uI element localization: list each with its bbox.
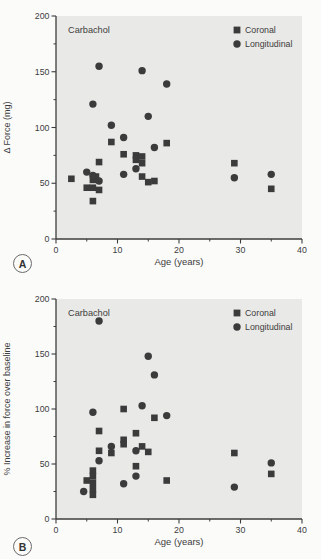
y-axis-label: Δ Force (mg) (2, 101, 12, 153)
data-point-coronal (90, 473, 97, 480)
data-point-coronal (151, 178, 158, 185)
data-point-coronal (108, 139, 115, 146)
y-tick-label: 200 (35, 294, 50, 304)
x-tick-label: 10 (113, 525, 123, 535)
x-tick-label: 0 (54, 245, 59, 255)
y-tick-label: 100 (35, 123, 50, 133)
legend-label: Coronal (245, 308, 276, 318)
data-point-coronal (139, 153, 146, 160)
annotation-carbachol: Carbachol (68, 25, 110, 35)
data-point-coronal (268, 471, 275, 478)
data-point-coronal (120, 406, 127, 413)
scatter-plot-panel-a: 010203040050100150200Age (years)Δ Force … (0, 0, 321, 280)
plot-area (56, 16, 302, 239)
data-point-longitudinal (80, 488, 87, 495)
data-point-coronal (90, 184, 97, 191)
x-axis-label: Age (years) (154, 536, 203, 547)
data-point-coronal (163, 140, 170, 147)
data-point-coronal (108, 450, 115, 457)
data-point-longitudinal (120, 480, 127, 487)
data-point-longitudinal (95, 177, 102, 184)
y-tick-label: 150 (35, 349, 50, 359)
data-point-coronal (120, 151, 127, 158)
data-point-longitudinal (145, 113, 152, 120)
x-tick-label: 30 (236, 245, 246, 255)
data-point-longitudinal (138, 67, 145, 74)
panel-b-letter: B (19, 541, 27, 553)
figure: 010203040050100150200Age (years)Δ Force … (0, 0, 321, 559)
legend-label: Longitudinal (245, 39, 292, 49)
y-tick-label: 100 (35, 404, 50, 414)
legend-label: Coronal (245, 25, 276, 35)
data-point-longitudinal (132, 447, 139, 454)
data-point-coronal (268, 186, 275, 193)
data-point-longitudinal (95, 62, 102, 69)
x-tick-label: 20 (174, 245, 184, 255)
data-point-coronal (139, 160, 146, 167)
panel-a-letter: A (19, 258, 27, 270)
y-tick-label: 200 (35, 11, 50, 21)
y-axis-label: % Increase in force over baseline (2, 342, 12, 475)
data-point-coronal (90, 492, 97, 499)
data-point-coronal (68, 175, 75, 182)
data-point-longitudinal (89, 409, 96, 416)
y-tick-label: 50 (40, 459, 50, 469)
data-point-longitudinal (231, 483, 238, 490)
data-point-longitudinal (163, 80, 170, 87)
legend-circle-marker (233, 323, 240, 330)
data-point-longitudinal (120, 171, 127, 178)
data-point-longitudinal (108, 443, 115, 450)
x-tick-label: 40 (297, 525, 307, 535)
panel-a-tag: A (13, 254, 32, 273)
data-point-coronal (96, 159, 103, 166)
y-tick-label: 0 (45, 514, 50, 524)
data-point-coronal (145, 179, 152, 186)
data-point-coronal (96, 448, 103, 455)
x-tick-label: 0 (54, 525, 59, 535)
y-tick-label: 50 (40, 178, 50, 188)
data-point-coronal (163, 477, 170, 484)
data-point-longitudinal (151, 371, 158, 378)
x-axis-label: Age (years) (154, 256, 203, 267)
data-point-longitudinal (95, 457, 102, 464)
legend-label: Longitudinal (245, 322, 292, 332)
data-point-coronal (133, 463, 140, 470)
x-tick-label: 20 (174, 525, 184, 535)
data-point-longitudinal (132, 472, 139, 479)
legend-square-marker (234, 310, 241, 317)
data-point-longitudinal (145, 353, 152, 360)
data-point-longitudinal (120, 134, 127, 141)
data-point-longitudinal (268, 171, 275, 178)
data-point-coronal (96, 187, 103, 194)
y-tick-label: 150 (35, 67, 50, 77)
data-point-longitudinal (89, 100, 96, 107)
data-point-longitudinal (95, 317, 102, 324)
data-point-longitudinal (108, 122, 115, 129)
annotation-carbachol: Carbachol (68, 308, 110, 318)
scatter-plot-panel-b: 010203040050100150200Age (years)% Increa… (0, 280, 321, 559)
y-tick-label: 0 (45, 234, 50, 244)
data-point-coronal (133, 152, 140, 159)
legend-square-marker (234, 27, 241, 34)
data-point-longitudinal (163, 412, 170, 419)
data-point-coronal (139, 443, 146, 450)
data-point-coronal (151, 415, 158, 422)
data-point-coronal (133, 430, 140, 437)
data-point-longitudinal (138, 402, 145, 409)
data-point-coronal (120, 441, 127, 448)
legend-circle-marker (233, 40, 240, 47)
data-point-coronal (231, 160, 238, 167)
data-point-coronal (90, 479, 97, 486)
data-point-coronal (90, 198, 97, 205)
x-tick-label: 10 (113, 245, 123, 255)
data-point-longitudinal (151, 144, 158, 151)
data-point-coronal (83, 477, 90, 484)
data-point-longitudinal (89, 172, 96, 179)
data-point-coronal (145, 449, 152, 456)
data-point-coronal (231, 450, 238, 457)
data-point-longitudinal (268, 459, 275, 466)
data-point-coronal (139, 173, 146, 180)
x-tick-label: 30 (236, 525, 246, 535)
data-point-coronal (83, 184, 90, 191)
x-tick-label: 40 (297, 245, 307, 255)
